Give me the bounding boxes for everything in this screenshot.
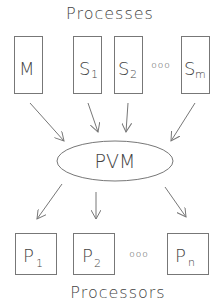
arrow-icon xyxy=(88,103,98,132)
processor-subscript: n xyxy=(188,256,195,269)
processor-label: P xyxy=(82,245,93,266)
pvm-node: PVM xyxy=(57,141,173,181)
processor-box-p1: P 1 xyxy=(16,234,57,275)
pvm-diagram: Processes M S 1 S 2 ooo S m PVM xyxy=(0,0,221,303)
processor-box-p2: P 2 xyxy=(74,234,115,275)
pvm-label: PVM xyxy=(95,150,136,172)
process-subscript: 1 xyxy=(91,68,98,81)
arrow-icon xyxy=(37,184,62,219)
process-label: M xyxy=(19,58,35,79)
process-label: S xyxy=(118,58,129,79)
process-box-m: M xyxy=(15,37,43,94)
process-subscript: m xyxy=(195,68,206,81)
arrows-from-pvm xyxy=(37,184,186,219)
process-box-sm: S m xyxy=(182,37,210,94)
processor-label: P xyxy=(175,245,186,266)
arrow-icon xyxy=(171,103,195,141)
process-box-s1: S 1 xyxy=(74,37,102,94)
processor-subscript: 1 xyxy=(36,257,43,270)
processor-box-pn: P n xyxy=(168,234,209,275)
process-subscript: 2 xyxy=(130,68,137,81)
process-box-s2: S 2 xyxy=(115,37,143,94)
arrow-icon xyxy=(126,103,128,132)
process-label: S xyxy=(184,58,195,79)
processor-ellipsis: ooo xyxy=(129,249,149,259)
process-ellipsis: ooo xyxy=(151,60,171,70)
processor-subscript: 2 xyxy=(94,257,101,270)
arrow-icon xyxy=(30,103,64,141)
processor-label: P xyxy=(23,245,34,266)
arrows-to-pvm xyxy=(30,103,195,141)
arrow-icon xyxy=(165,187,186,217)
processors-title: Processors xyxy=(70,283,165,302)
process-label: S xyxy=(79,58,90,79)
processes-title: Processes xyxy=(66,4,154,23)
